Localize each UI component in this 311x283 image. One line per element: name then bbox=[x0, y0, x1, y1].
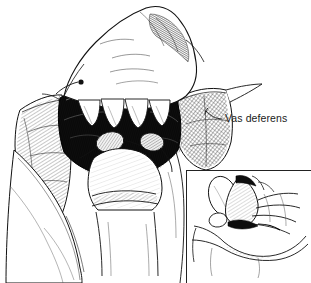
detail-inset bbox=[186, 170, 311, 283]
figure-root: Vas deferens bbox=[0, 0, 311, 283]
illustration-canvas: Vas deferens bbox=[0, 0, 311, 283]
label-vas-deferens: Vas deferens bbox=[225, 112, 287, 124]
